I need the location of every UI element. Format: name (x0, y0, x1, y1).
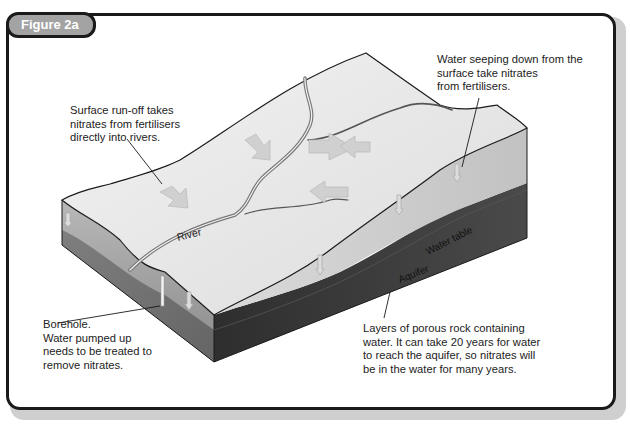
leader-aquifer (384, 292, 390, 318)
callout-borehole: Borehole. Water pumped up needs to be tr… (43, 318, 152, 372)
borehole (161, 276, 164, 306)
callout-aquifer-layers: Layers of porous rock containing water. … (363, 322, 540, 376)
callout-surface-runoff: Surface run-off takes nitrates from fert… (70, 104, 180, 145)
figure-label-tab: Figure 2a (6, 12, 96, 38)
callout-water-seeping: Water seeping down from the surface take… (437, 53, 583, 94)
